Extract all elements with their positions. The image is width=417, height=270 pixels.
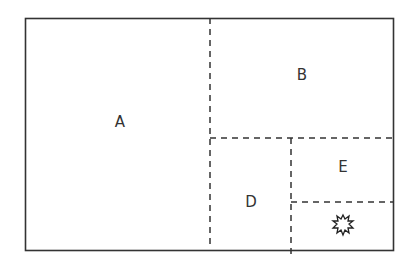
region-e-label: E: [338, 158, 347, 176]
region-d-label: D: [245, 193, 257, 211]
region-a-label: A: [115, 113, 125, 131]
diagram-canvas: [0, 0, 417, 270]
burst-icon: [333, 215, 353, 235]
region-b-label: B: [297, 66, 307, 84]
